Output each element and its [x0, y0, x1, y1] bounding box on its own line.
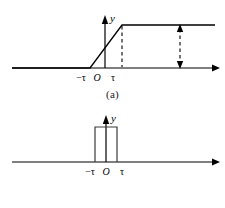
- x-tick-label-negative-tau-a: −τ: [76, 72, 86, 83]
- x-axis-b: [12, 159, 220, 166]
- x-axis-arrowhead-a: [212, 65, 220, 72]
- figure-root: y −τ O τ (a) y: [0, 0, 225, 208]
- y-axis-b: [103, 115, 109, 162]
- panel-a: y −τ O τ (a): [0, 0, 225, 108]
- caption-a: (a): [0, 88, 225, 100]
- x-tick-label-tau-a: τ: [111, 72, 115, 83]
- x-tick-label-negative-tau-b: −τ: [85, 166, 95, 177]
- plot-b: y −τ O τ: [0, 108, 225, 208]
- x-tick-label-origin-b: O: [102, 166, 109, 177]
- panel-b: y −τ O τ (b): [0, 108, 225, 208]
- y-axis-arrowhead-a: [102, 15, 108, 24]
- amplitude-measure-arrow-a: [177, 24, 183, 69]
- y-axis-arrowhead-b: [103, 115, 109, 124]
- y-axis-label-b: y: [110, 112, 116, 124]
- x-tick-label-tau-b: τ: [120, 166, 124, 177]
- x-axis-arrowhead-b: [212, 159, 220, 166]
- y-axis-label-a: y: [109, 12, 115, 24]
- x-tick-label-origin-a: O: [93, 72, 100, 83]
- y-axis-a: [102, 15, 108, 68]
- ramp-curve-a: [12, 25, 215, 68]
